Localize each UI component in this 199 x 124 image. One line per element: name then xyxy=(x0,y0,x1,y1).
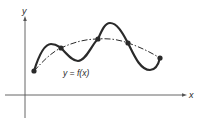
intersection-point xyxy=(125,40,130,45)
x-axis-arrow-icon xyxy=(182,93,187,97)
function-curve xyxy=(34,23,160,71)
intersection-point xyxy=(31,68,36,73)
curve-label: y = f(x) xyxy=(62,68,89,78)
x-axis-label: x xyxy=(188,90,194,100)
intersection-point xyxy=(58,45,63,50)
function-diagram: y x y = f(x) xyxy=(0,0,199,124)
y-axis-arrow-icon xyxy=(23,16,27,21)
y-axis-label: y xyxy=(21,6,27,16)
intersection-point xyxy=(157,55,162,60)
intersection-point xyxy=(95,36,100,41)
